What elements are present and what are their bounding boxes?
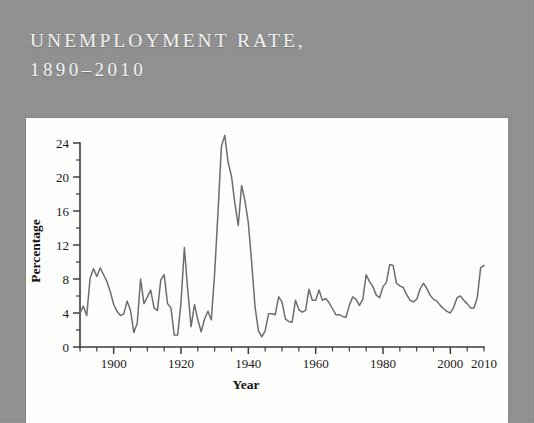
figure-title-line-2: 1890–2010 xyxy=(30,55,450,84)
x-tick-label: 2010 xyxy=(471,356,497,371)
unemployment-rate-figure: UNEMPLOYMENT RATE, 1890–2010 04812162024… xyxy=(0,0,534,423)
line-chart: 04812162024 1900192019401960198020002010… xyxy=(26,118,508,423)
y-axis-title: Percentage xyxy=(28,219,43,282)
chart-panel: 04812162024 1900192019401960198020002010… xyxy=(26,118,508,423)
series-line xyxy=(80,135,484,336)
x-axis: 1900192019401960198020002010 xyxy=(80,347,497,371)
x-tick-label: 1960 xyxy=(303,356,329,371)
x-tick-label: 1940 xyxy=(235,356,261,371)
x-axis-title: Year xyxy=(233,377,260,392)
x-tick-label: 1980 xyxy=(370,356,396,371)
y-tick-label: 4 xyxy=(63,306,70,321)
y-tick-label: 16 xyxy=(56,204,70,219)
x-tick-label: 1900 xyxy=(101,356,127,371)
y-axis: 04812162024 xyxy=(56,136,80,355)
figure-title: UNEMPLOYMENT RATE, 1890–2010 xyxy=(30,26,450,84)
y-tick-label: 0 xyxy=(63,340,70,355)
figure-title-line-1: UNEMPLOYMENT RATE, xyxy=(30,26,450,55)
y-tick-label: 12 xyxy=(56,238,69,253)
x-tick-label: 2000 xyxy=(437,356,463,371)
y-tick-label: 8 xyxy=(63,272,70,287)
x-tick-label: 1920 xyxy=(168,356,194,371)
y-tick-label: 20 xyxy=(56,170,69,185)
data-series-unemployment-rate xyxy=(80,135,484,336)
y-tick-label: 24 xyxy=(56,136,70,151)
